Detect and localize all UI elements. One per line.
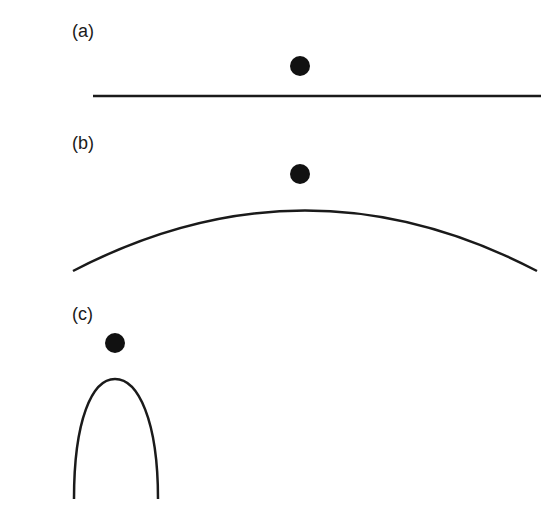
diagram-figure: [0, 0, 553, 519]
panel-a-dot: [290, 56, 310, 76]
diagram-canvas: (a) (b) (c): [0, 0, 553, 519]
panel-b-curved-surface: [73, 211, 537, 272]
panel-c-sharp-tip: [74, 379, 158, 499]
panel-c-dot: [105, 333, 125, 353]
panel-b-dot: [290, 164, 310, 184]
